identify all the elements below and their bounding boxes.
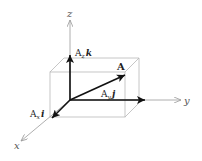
vector-a-label: A [116,61,125,72]
vector-diagram: z y x A Azk Ayj Axi [0,0,202,161]
y-axis-label: y [183,95,190,106]
vector-ax-i [52,100,70,118]
component-box [50,58,139,117]
x-axis-label: x [14,140,20,151]
z-axis-label: z [66,8,73,19]
vector-a [70,75,125,100]
axes [21,20,181,141]
vector-ax-label: Axi [29,109,45,120]
vectors [52,55,145,118]
box-edge [125,58,139,72]
box-edge [50,58,64,72]
box-edge [125,103,139,117]
vector-az-label: Azk [74,48,92,59]
x-axis [21,100,70,141]
